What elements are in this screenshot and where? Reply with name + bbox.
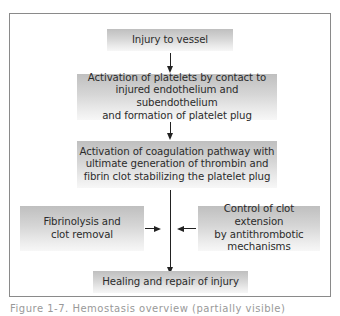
- node-label-line: mechanisms: [227, 241, 290, 254]
- node-label-line: injured endothelium and subendothelium: [77, 84, 277, 109]
- arrow-down-icon: [167, 133, 173, 140]
- node-label-line: ultimate generation of thrombin and: [86, 158, 269, 171]
- node-label-line: by antithrombotic: [214, 229, 303, 242]
- arrow-left-icon: [177, 226, 184, 232]
- node-label: Injury to vessel: [132, 34, 208, 47]
- connector-line: [170, 190, 171, 268]
- connector-line: [184, 228, 196, 229]
- node-label-line: Control of clot extension: [198, 203, 320, 228]
- figure-caption: Figure 1-7. Hemostasis overview (partial…: [10, 303, 285, 314]
- node-platelet-activation: Activation of platelets by contact to in…: [77, 74, 277, 120]
- connector-line: [145, 228, 154, 229]
- arrow-right-icon: [154, 226, 161, 232]
- node-healing: Healing and repair of injury: [93, 271, 248, 293]
- node-label-line: Fibrinolysis and: [43, 216, 120, 229]
- node-label-line: and formation of platelet plug: [102, 110, 252, 123]
- connector-line: [170, 53, 171, 67]
- node-label-line: Activation of platelets by contact to: [88, 72, 266, 85]
- node-label-line: fibrin clot stabilizing the platelet plu…: [84, 171, 271, 184]
- node-label-line: clot removal: [51, 229, 113, 242]
- node-label-line: Activation of coagulation pathway with: [80, 146, 275, 159]
- node-label: Healing and repair of injury: [102, 276, 239, 289]
- node-fibrinolysis: Fibrinolysis and clot removal: [20, 206, 144, 251]
- node-injury-to-vessel: Injury to vessel: [107, 29, 233, 51]
- node-antithrombotic-control: Control of clot extension by antithrombo…: [198, 206, 320, 251]
- node-coagulation-activation: Activation of coagulation pathway with u…: [77, 141, 277, 188]
